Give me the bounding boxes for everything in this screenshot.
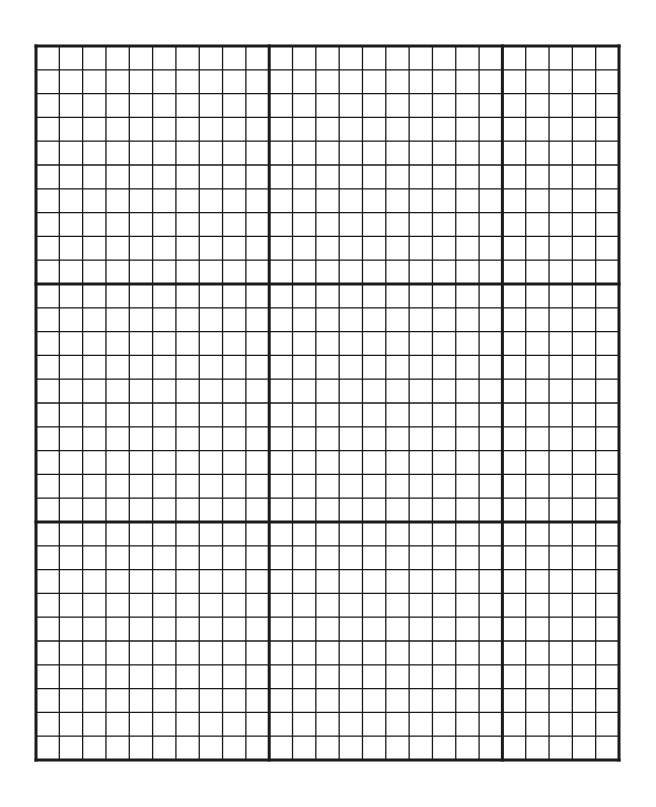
graph-paper-grid [0, 0, 656, 807]
